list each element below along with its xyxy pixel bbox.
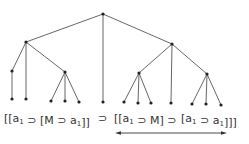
tree-node-L1 <box>10 69 13 72</box>
tree-edges <box>12 14 221 105</box>
tree-node-R <box>170 42 173 45</box>
tree-node-leaf12 <box>204 102 207 105</box>
formula-right-antecedent: [[a1 ⊃ M] ⊃ <box>114 112 177 127</box>
tree-node-L3 <box>63 70 66 73</box>
formula-main-connective: ⊃ <box>98 112 107 125</box>
tree-edge-R1-leaf7 <box>124 73 139 102</box>
arrow-left-head-icon <box>115 131 121 135</box>
tree-node-leaf1 <box>10 97 13 100</box>
tree-node-leaf13 <box>219 103 222 106</box>
double-arrow-icon <box>115 131 227 135</box>
tree-edge-R3-leaf11 <box>192 74 207 104</box>
tree-node-leaf7 <box>122 100 125 103</box>
tree-node-leaf2 <box>24 97 27 100</box>
tree-node-leaf5 <box>77 100 80 103</box>
tree-node-leaf9 <box>149 101 152 104</box>
tree-edge-R3-leaf12 <box>206 74 207 104</box>
parse-tree-diagram: [[a1 ⊃ [M ⊃ a1]]⊃[[a1 ⊃ M] ⊃[a1 ⊃ a1]]] <box>0 0 249 144</box>
tree-edge-R-R1 <box>139 44 172 73</box>
tree-node-R1 <box>137 71 140 74</box>
formula-text: [[a1 ⊃ [M ⊃ a1]]⊃[[a1 ⊃ M] ⊃[a1 ⊃ a1]]] <box>4 112 237 129</box>
tree-node-root <box>101 12 104 15</box>
tree-edge-L-L1 <box>12 42 26 71</box>
tree-node-L <box>24 40 27 43</box>
tree-edge-L-L3 <box>26 42 65 72</box>
tree-edge-L3-leaf5 <box>65 72 79 102</box>
formula-left-antecedent: [[a1 ⊃ [M ⊃ a1]] <box>4 112 90 129</box>
tree-edge-R1-leaf8 <box>138 73 139 103</box>
formula-right-consequent: [a1 ⊃ a1]]] <box>181 112 237 129</box>
tree-node-leaf6 <box>101 100 104 103</box>
tree-node-leaf3 <box>49 99 52 102</box>
tree-edge-R1-leaf9 <box>139 73 151 103</box>
arrow-right-head-icon <box>221 131 227 135</box>
tree-node-leaf4 <box>63 99 66 102</box>
tree-edge-root-R <box>103 14 172 44</box>
tree-node-leaf8 <box>136 101 139 104</box>
tree-node-leaf10 <box>169 101 172 104</box>
tree-edge-R-R3 <box>172 44 207 74</box>
tree-edge-R3-leaf13 <box>207 74 221 105</box>
tree-node-R3 <box>205 72 208 75</box>
tree-edge-R-leaf10 <box>171 44 172 103</box>
tree-edge-L3-leaf3 <box>51 72 65 101</box>
tree-node-leaf11 <box>190 102 193 105</box>
tree-edge-root-L <box>26 14 103 42</box>
